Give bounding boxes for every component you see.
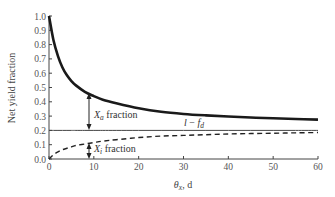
xi-double-arrow <box>87 143 92 159</box>
y-tick-label: 0.1 <box>34 140 46 150</box>
x-tick-label: 60 <box>313 162 323 172</box>
y-tick-label: 0.0 <box>34 155 46 165</box>
x-tick-label: 10 <box>89 162 99 172</box>
xa-double-arrow <box>87 93 92 130</box>
x-tick-label: 20 <box>134 162 144 172</box>
one-minus-fd-label: l − fd <box>184 117 204 130</box>
y-axis-title: Net yield fraction <box>6 53 17 124</box>
y-tick-label: 0.2 <box>34 126 46 136</box>
y-tick-label: 0.7 <box>34 54 46 64</box>
x-axis-title: θx, d <box>174 179 192 192</box>
x-tick-label: 30 <box>179 162 189 172</box>
xi-fraction-label: Xi fraction <box>93 143 136 156</box>
x-tick-label: 40 <box>224 162 234 172</box>
y-tick-label: 0.9 <box>34 26 46 36</box>
x-tick-label: 0 <box>47 162 52 172</box>
net-yield-chart: 0.00.10.20.30.40.50.60.70.80.91.0 010203… <box>0 0 335 197</box>
y-tick-label: 0.4 <box>34 97 46 107</box>
y-tick-label: 0.5 <box>34 83 46 93</box>
y-tick-label: 1.0 <box>34 12 46 22</box>
y-tick-label: 0.6 <box>34 69 46 79</box>
y-tick-label: 0.3 <box>34 112 46 122</box>
x-axis-ticks: 0102030405060 <box>47 156 323 172</box>
y-tick-label: 0.8 <box>34 40 46 50</box>
x-tick-label: 50 <box>268 162 278 172</box>
xa-fraction-label: Xa fraction <box>93 109 137 122</box>
